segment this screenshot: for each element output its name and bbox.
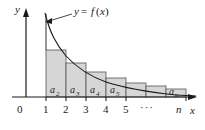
curve-label-close-paren: ) (105, 5, 109, 18)
bar-label-a3-base: a (70, 84, 75, 95)
bar-label-a5-subscript: 5 (116, 90, 120, 98)
bar-label-a2-subscript: 2 (56, 90, 60, 98)
origin-label: 0 (17, 103, 23, 115)
curve-label: y = f ( x ) (73, 5, 109, 18)
x-tick-label-3: 3 (83, 103, 89, 115)
curve-label-y: y (73, 5, 79, 17)
x-tick-label-1: 1 (43, 103, 49, 115)
x-tick-label-4: 4 (103, 103, 109, 115)
curve-label-equals: = (81, 5, 87, 17)
x-axis-label: x (189, 104, 195, 116)
bar-label-a4-base: a (90, 84, 95, 95)
integral-test-figure: y x 0 y = f ( x ) 1 2 3 4 5 ··· n a 2 (0, 0, 205, 130)
bar-label-a5-base: a (110, 84, 115, 95)
x-axis-ellipsis: ··· (140, 101, 154, 113)
x-axis-arrowhead (188, 94, 197, 100)
y-axis-arrowhead (23, 8, 29, 17)
curve-label-leader-line (49, 14, 72, 21)
bar-label-an-subscript: n (175, 91, 179, 99)
x-tick-label-n: n (176, 103, 182, 115)
bar-label-an-base: a (169, 86, 174, 97)
x-tick-label-5: 5 (123, 103, 129, 115)
bar-label-a4-subscript: 4 (96, 90, 100, 98)
bar-unlabeled-1 (126, 83, 146, 97)
y-axis-label: y (14, 3, 20, 15)
x-tick-labels: 1 2 3 4 5 ··· n (43, 101, 182, 115)
bar-label-a3-subscript: 3 (75, 90, 80, 98)
bar-label-a2-base: a (50, 84, 55, 95)
x-tick-label-2: 2 (63, 103, 69, 115)
